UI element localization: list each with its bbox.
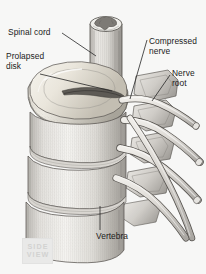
prolapsed-disk-structure — [28, 62, 128, 130]
side-view-badge: SIDE VIEW — [22, 238, 53, 264]
label-compressed-nerve: Compressed nerve — [149, 37, 197, 56]
label-prolapsed-disk: Prolapsed disk — [6, 52, 44, 71]
label-spinal-cord: Spinal cord — [8, 28, 50, 38]
label-vertebra: Vertebra — [96, 232, 128, 242]
anatomical-diagram-figure: Spinal cord Prolapsed disk Compressed ne… — [0, 0, 206, 274]
label-nerve-root: Nerve root — [172, 69, 195, 88]
side-view-badge-line2: VIEW — [26, 251, 50, 259]
